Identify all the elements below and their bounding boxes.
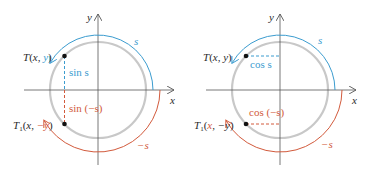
arc-s-label: s (134, 35, 138, 47)
arc-neg-s-label: −s (137, 139, 149, 151)
point-T1 (62, 122, 67, 127)
point-T-label: T(x, y) (203, 51, 232, 63)
cosine-diagram-panel: y x s −s T(x, y) T1(x, −y) cos s cos (−s… (185, 0, 370, 174)
point-T1 (244, 122, 249, 127)
point-T1-label: T1(x, −y) (13, 119, 53, 131)
point-T (62, 54, 67, 59)
sin-s-label: sin s (69, 66, 89, 78)
point-T1-label: T1(x, −y) (194, 119, 234, 131)
x-axis-label: x (170, 94, 175, 106)
y-axis-label: y (87, 11, 92, 23)
sine-diagram-graphic (0, 0, 185, 174)
point-T-label: T(x, y) (23, 51, 52, 63)
x-axis-label: x (352, 94, 357, 106)
sin-neg-s-label: sin (−s) (69, 102, 102, 114)
cos-s-label: cos s (250, 58, 272, 70)
sine-diagram-panel: y x s −s T(x, y) T1(x, −y) sin s sin (−s… (0, 0, 185, 174)
cosine-diagram-graphic (185, 0, 370, 174)
point-T (244, 54, 249, 59)
y-axis-label: y (269, 11, 274, 23)
cos-neg-s-label: cos (−s) (249, 106, 284, 118)
arc-neg-s-label: −s (321, 138, 333, 150)
arc-s-label: s (318, 34, 322, 46)
